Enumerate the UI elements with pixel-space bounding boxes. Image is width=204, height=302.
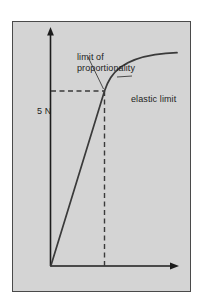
x-axis bbox=[51, 263, 180, 270]
annotation-elastic-limit: elastic limit bbox=[131, 94, 176, 105]
y-axis-tick-label-5n: 5 N bbox=[37, 106, 51, 117]
leader-line-elastic-limit bbox=[117, 76, 132, 77]
figure-panel: limit of proportionality elastic limit 5… bbox=[12, 21, 191, 292]
x-axis-tick-label-01m: 0.1 m bbox=[98, 290, 121, 292]
tension-curve bbox=[51, 53, 177, 266]
annotation-limit-of-proportionality: limit of proportionality bbox=[77, 52, 157, 73]
y-axis bbox=[47, 27, 54, 266]
